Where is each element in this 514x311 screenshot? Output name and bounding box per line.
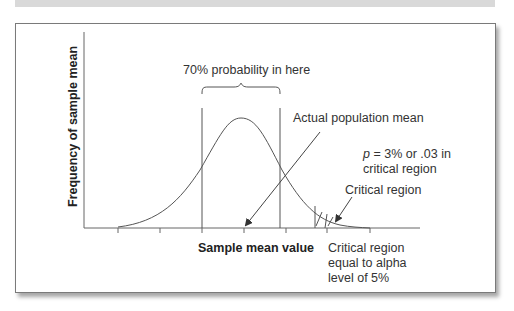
critical-region-label: Critical region	[345, 183, 421, 197]
x-axis-ticks	[118, 228, 370, 233]
p-value-label-line1: p = 3% or .03 in	[362, 147, 451, 161]
population-mean-arrow	[246, 132, 320, 225]
alpha-label-line2: equal to alpha	[328, 256, 407, 270]
population-mean-label: Actual population mean	[293, 111, 424, 125]
sampling-distribution-diagram: Frequency of sample mean Sample mean val…	[0, 0, 514, 311]
alpha-label-line1: Critical region	[328, 241, 404, 255]
alpha-label-line3: level of 5%	[328, 271, 389, 285]
p-variable: p	[362, 147, 370, 161]
y-axis-label: Frequency of sample mean	[66, 46, 80, 207]
brace	[202, 83, 280, 94]
probability-region-label: 70% probability in here	[183, 63, 310, 77]
critical-region-arrow	[336, 197, 352, 221]
critical-region-inner-boundary	[325, 214, 327, 228]
p-value-text: = 3% or .03 in	[370, 147, 451, 161]
normal-curve	[118, 118, 370, 228]
p-value-label-line2: critical region	[363, 162, 437, 176]
x-axis-label: Sample mean value	[198, 241, 314, 255]
